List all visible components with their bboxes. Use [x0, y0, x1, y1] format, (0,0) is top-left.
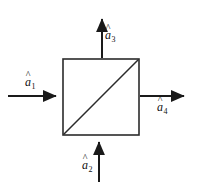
port-subscript-a2: 2: [88, 165, 92, 174]
port-subscript-a4: 4: [163, 107, 167, 116]
hat-accent-a4: ^: [158, 95, 163, 105]
hat-accent-a1: ^: [26, 70, 31, 80]
port-subscript-a3: 3: [111, 35, 115, 44]
port-label-a4: ^a4: [157, 101, 167, 116]
port-label-a2: ^a2: [82, 159, 92, 174]
port-label-a3: ^a3: [105, 29, 115, 44]
port-subscript-a1: 1: [31, 82, 35, 91]
diagram-canvas: ^a1 ^a2 ^a3 ^a4: [0, 0, 198, 190]
diagram-svg: [0, 0, 198, 190]
hat-accent-a3: ^: [106, 23, 111, 33]
hat-accent-a2: ^: [83, 153, 88, 163]
port-label-a1: ^a1: [25, 76, 35, 91]
